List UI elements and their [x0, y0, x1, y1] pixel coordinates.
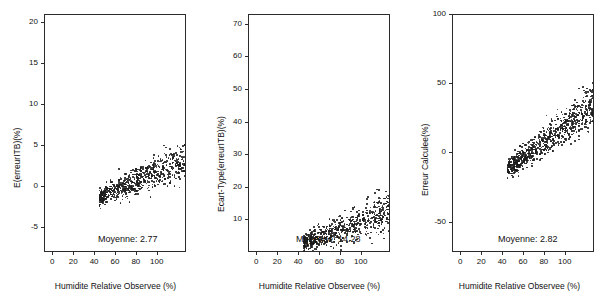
scatter-point	[116, 198, 118, 200]
scatter-point	[513, 160, 515, 162]
scatter-point	[150, 171, 152, 173]
scatter-point	[116, 188, 118, 190]
scatter-point	[566, 108, 568, 110]
scatter-point	[560, 120, 562, 122]
scatter-point	[562, 130, 564, 132]
x-tick-mark	[502, 252, 503, 255]
scatter-point	[563, 122, 565, 124]
scatter-point	[173, 167, 175, 169]
scatter-point	[538, 136, 540, 138]
scatter-point	[575, 129, 577, 131]
scatter-point	[533, 146, 535, 148]
scatter-point	[354, 206, 356, 208]
scatter-point	[367, 227, 369, 229]
scatter-point	[387, 222, 389, 224]
y-tick-label: 40	[218, 117, 242, 126]
scatter-point	[151, 180, 153, 182]
scatter-point	[585, 92, 587, 94]
scatter-point	[100, 208, 102, 210]
scatter-point	[378, 206, 380, 208]
scatter-point	[538, 143, 540, 145]
y-tick-mark	[245, 56, 248, 57]
scatter-point	[128, 192, 130, 194]
scatter-point	[542, 146, 544, 148]
scatter-point	[160, 160, 162, 162]
scatter-point	[367, 196, 369, 198]
scatter-point	[549, 148, 551, 150]
scatter-point	[374, 201, 376, 203]
panel-a-plot-area	[44, 14, 186, 252]
scatter-point	[356, 223, 358, 225]
scatter-point	[148, 177, 150, 179]
scatter-point	[557, 118, 559, 120]
scatter-point	[114, 195, 116, 197]
scatter-point	[388, 230, 390, 232]
scatter-point	[102, 202, 104, 204]
scatter-point	[554, 120, 556, 122]
scatter-point	[341, 217, 343, 219]
scatter-point	[138, 184, 140, 186]
scatter-point	[583, 105, 585, 107]
scatter-point	[350, 211, 352, 213]
scatter-point	[508, 162, 510, 164]
scatter-point	[110, 181, 112, 183]
scatter-point	[518, 175, 520, 177]
scatter-point	[563, 117, 565, 119]
scatter-point	[157, 171, 159, 173]
scatter-point	[389, 206, 390, 208]
scatter-point	[567, 129, 569, 131]
scatter-point	[340, 249, 342, 251]
panel-c-x-axis-label: Humidite Relative Observee (%)	[432, 281, 607, 291]
scatter-point	[356, 211, 358, 213]
scatter-point	[521, 146, 523, 148]
y-tick-label: 50	[422, 78, 446, 87]
scatter-point	[330, 246, 332, 248]
scatter-point	[116, 184, 118, 186]
scatter-point	[328, 230, 330, 232]
scatter-point	[508, 166, 510, 168]
scatter-point	[540, 158, 542, 160]
scatter-point	[99, 194, 101, 196]
scatter-point	[350, 229, 352, 231]
y-tick-mark	[245, 187, 248, 188]
scatter-point	[375, 210, 377, 212]
scatter-point	[162, 159, 164, 161]
scatter-point	[374, 218, 376, 220]
scatter-point	[176, 173, 178, 175]
scatter-point	[101, 190, 103, 192]
scatter-point	[313, 251, 315, 252]
scatter-point	[585, 105, 587, 107]
scatter-point	[378, 197, 380, 199]
scatter-point	[138, 174, 140, 176]
scatter-point	[533, 139, 535, 141]
scatter-point	[114, 200, 116, 202]
scatter-point	[162, 166, 164, 168]
scatter-point	[558, 137, 560, 139]
y-tick-label: 50	[218, 84, 242, 93]
scatter-point	[367, 215, 369, 217]
scatter-point	[154, 160, 156, 162]
y-tick-label: 0	[14, 181, 38, 190]
scatter-point	[546, 131, 548, 133]
scatter-point	[508, 164, 510, 166]
scatter-point	[122, 199, 124, 201]
scatter-point	[362, 211, 364, 213]
x-tick-mark	[136, 252, 137, 255]
scatter-point	[104, 204, 106, 206]
scatter-point	[178, 158, 180, 160]
scatter-point	[593, 103, 594, 105]
scatter-point	[568, 138, 570, 140]
scatter-point	[182, 167, 184, 169]
panel-a-annotation: Moyenne: 2.77	[98, 234, 158, 244]
scatter-point	[159, 161, 161, 163]
scatter-point	[562, 114, 564, 116]
scatter-point	[124, 190, 126, 192]
scatter-point	[356, 227, 358, 229]
scatter-point	[583, 102, 585, 104]
scatter-point	[125, 173, 127, 175]
scatter-point	[344, 210, 346, 212]
scatter-point	[590, 108, 592, 110]
scatter-point	[578, 88, 580, 90]
scatter-point	[578, 130, 580, 132]
scatter-point	[132, 169, 134, 171]
